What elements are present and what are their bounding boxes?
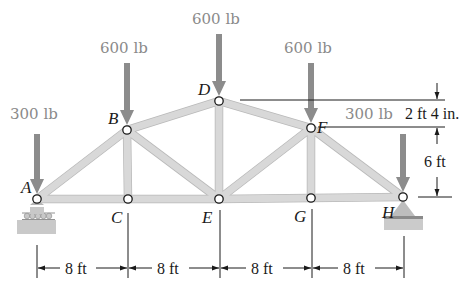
load-label-B: 600 lb: [100, 39, 148, 57]
truss-diagram: 300 lb600 lb600 lb600 lb300 lb ABCDEFGH …: [0, 0, 476, 294]
load-arrow-F: 600 lb: [284, 39, 332, 123]
joint-label-E: E: [201, 208, 213, 227]
member-EG: [219, 198, 311, 199]
joint-label-H: H: [381, 203, 396, 222]
member-BD: [127, 101, 219, 130]
member-EF: [219, 128, 311, 199]
joint-E-icon: [215, 195, 223, 203]
load-label-H: 300 lb: [345, 105, 393, 123]
roller-support-icon: [17, 199, 56, 234]
dim-label-1: 8 ft: [65, 260, 87, 277]
joint-label-C: C: [111, 208, 123, 227]
dim-label-2ft4in: 2 ft 4 in.: [405, 105, 459, 122]
dim-label-2: 8 ft: [157, 260, 179, 277]
joint-G-icon: [307, 194, 315, 202]
dim-label-4: 8 ft: [343, 260, 365, 277]
joint-H-icon: [399, 193, 407, 201]
joint-C-icon: [124, 195, 132, 203]
member-GH: [311, 197, 403, 198]
joint-B-icon: [123, 126, 131, 134]
joint-A-icon: [33, 195, 41, 203]
load-label-A: 300 lb: [10, 105, 58, 123]
member-BE: [127, 130, 219, 199]
joint-label-A: A: [20, 178, 32, 197]
member-BC: [127, 130, 128, 199]
dim-label-6ft: 6 ft: [424, 153, 446, 170]
member-AB: [37, 130, 127, 199]
member-DF: [219, 101, 311, 128]
vertical-dimensions: 2 ft 4 in. 6 ft: [240, 83, 459, 197]
joint-label-G: G: [294, 207, 306, 226]
joint-D-icon: [215, 97, 223, 105]
joint-F-icon: [307, 124, 315, 132]
joint-label-B: B: [108, 109, 119, 128]
dim-label-3: 8 ft: [251, 260, 273, 277]
joint-label-D: D: [197, 80, 211, 99]
load-label-D: 600 lb: [192, 10, 240, 28]
member-FH: [311, 128, 403, 197]
load-arrow-A: 300 lb: [10, 105, 58, 194]
load-label-F: 600 lb: [284, 39, 332, 57]
